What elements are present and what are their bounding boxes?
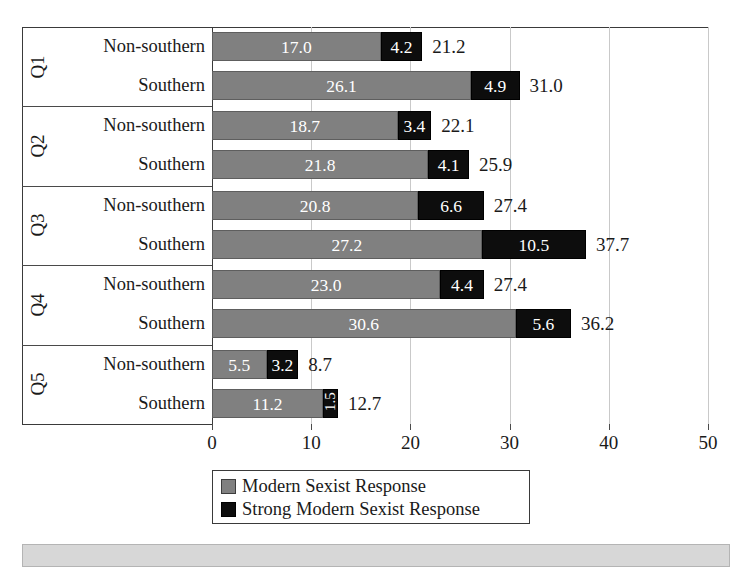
bar-segment-modern: 17.0: [212, 32, 381, 61]
bar-segment-value: 20.8: [213, 192, 417, 221]
bar-segment-modern: 30.6: [212, 309, 516, 338]
bar-total-label: 22.1: [441, 111, 474, 140]
axis-tick-label: 50: [678, 431, 738, 455]
bar-total-label: 27.4: [494, 270, 527, 299]
bar-segment-value: 5.5: [213, 351, 266, 380]
group-label-text: Q4: [27, 293, 49, 316]
bar-segment-value: 11.2: [213, 390, 322, 419]
bar-segment-modern: 20.8: [212, 191, 418, 220]
row-label: Non-southern: [54, 111, 205, 139]
row-label: Southern: [54, 309, 205, 337]
bar-segment-modern: 26.1: [212, 71, 471, 100]
bar-segment-value: 26.1: [213, 72, 470, 101]
axis-tick: [609, 424, 610, 430]
bar-segment-value: 3.4: [399, 112, 431, 141]
axis-tick: [311, 424, 312, 430]
axis-tick-label: 10: [281, 431, 341, 455]
bar-segment-modern: 23.0: [212, 270, 440, 299]
bar-segment-value: 27.2: [213, 231, 481, 260]
row-label: Non-southern: [54, 270, 205, 298]
plot-frame-bottom: [22, 424, 212, 425]
bar-total-label: 27.4: [494, 191, 527, 220]
bar-segment-modern: 21.8: [212, 150, 428, 179]
legend-swatch-modern: [221, 479, 236, 494]
bar-segment-strong: 4.4: [440, 270, 484, 299]
plot-frame-top: [22, 27, 708, 28]
group-label-q4: Q4: [22, 265, 54, 344]
axis-tick-label: 0: [182, 431, 242, 455]
bar-segment-strong: 6.6: [418, 191, 483, 220]
bar-segment-value: 17.0: [213, 33, 380, 62]
bar-segment-strong: 5.6: [516, 309, 572, 338]
axis-tick: [212, 424, 213, 430]
bar-segment-value: 4.4: [441, 271, 483, 300]
gridline: [609, 27, 610, 424]
bar-segment-strong: 10.5: [482, 230, 586, 259]
row-label: Non-southern: [54, 32, 205, 60]
bar-segment-value: 4.9: [472, 72, 519, 101]
bar-total-label: 25.9: [479, 150, 512, 179]
legend-item: Strong Modern Sexist Response: [221, 498, 529, 521]
axis-tick: [510, 424, 511, 430]
bar-segment-value: 18.7: [213, 112, 397, 141]
group-label-text: Q5: [27, 373, 49, 396]
group-label-text: Q2: [27, 134, 49, 157]
row-label: Non-southern: [54, 191, 205, 219]
bar-total-label: 8.7: [308, 350, 332, 379]
group-label-text: Q3: [27, 214, 49, 237]
gridline: [708, 27, 709, 424]
bar-segment-strong: 4.1: [428, 150, 469, 179]
row-label: Non-southern: [54, 350, 205, 378]
bar-total-label: 21.2: [432, 32, 465, 61]
group-label-q1: Q1: [22, 27, 54, 106]
bar-segment-strong: 4.2: [381, 32, 423, 61]
axis-tick-label: 40: [579, 431, 639, 455]
bar-segment-modern: 11.2: [212, 389, 323, 418]
group-label-q3: Q3: [22, 186, 54, 265]
legend-label: Strong Modern Sexist Response: [242, 498, 480, 521]
group-label-text: Q1: [27, 55, 49, 78]
bar-segment-value: 3.2: [268, 351, 298, 380]
row-label: Southern: [54, 150, 205, 178]
bar-segment-strong: 3.4: [398, 111, 432, 140]
bar-segment-value: 1.5: [316, 398, 345, 411]
bar-segment-modern: 5.5: [212, 350, 267, 379]
bar-segment-value: 10.5: [483, 231, 585, 260]
bar-total-label: 31.0: [530, 71, 563, 100]
chart-legend: Modern Sexist ResponseStrong Modern Sexi…: [212, 470, 530, 524]
group-label-q5: Q5: [22, 345, 54, 424]
bar-segment-value: 5.6: [517, 310, 571, 339]
axis-tick-label: 20: [380, 431, 440, 455]
row-label: Southern: [54, 230, 205, 258]
axis-tick: [708, 424, 709, 430]
axis-tick-label: 30: [480, 431, 540, 455]
bottom-band: [22, 544, 730, 567]
stacked-bar-chart: 01020304050Q1Non-southern17.04.221.2Sout…: [0, 0, 746, 567]
bar-segment-strong: 3.2: [267, 350, 299, 379]
row-label: Southern: [54, 71, 205, 99]
bar-segment-value: 23.0: [213, 271, 439, 300]
bar-segment-value: 30.6: [213, 310, 515, 339]
bar-segment-value: 4.2: [382, 33, 422, 62]
group-label-q2: Q2: [22, 106, 54, 185]
legend-label: Modern Sexist Response: [242, 475, 426, 498]
bar-total-label: 37.7: [596, 230, 629, 259]
bar-segment-modern: 18.7: [212, 111, 398, 140]
bar-total-label: 12.7: [348, 389, 381, 418]
bar-segment-value: 21.8: [213, 151, 427, 180]
bar-segment-modern: 27.2: [212, 230, 482, 259]
row-label: Southern: [54, 389, 205, 417]
legend-swatch-strong: [221, 502, 236, 517]
bar-segment-value: 6.6: [419, 192, 482, 221]
bar-segment-value: 4.1: [429, 151, 468, 180]
legend-item: Modern Sexist Response: [221, 475, 529, 498]
bar-segment-strong: 4.9: [471, 71, 520, 100]
axis-tick: [410, 424, 411, 430]
bar-segment-strong: 1.5: [323, 389, 338, 418]
bar-total-label: 36.2: [581, 309, 614, 338]
